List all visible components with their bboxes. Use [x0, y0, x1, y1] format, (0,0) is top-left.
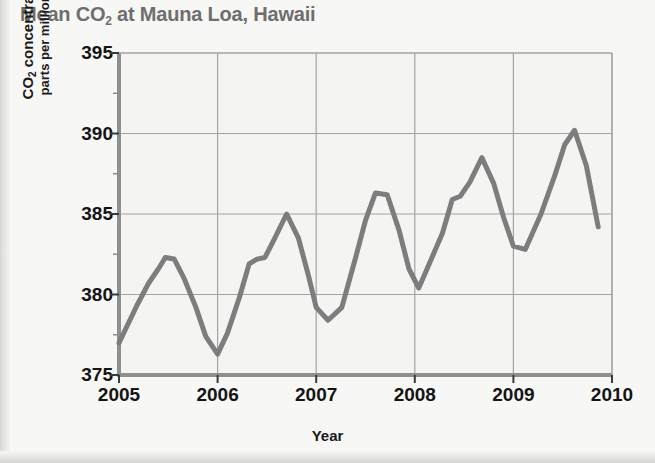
chart-plot-area [0, 0, 655, 463]
x-axis-label: Year [0, 427, 655, 444]
chart-page: Mean CO2 at Mauna Loa, Hawaii CO2 concen… [0, 0, 655, 463]
